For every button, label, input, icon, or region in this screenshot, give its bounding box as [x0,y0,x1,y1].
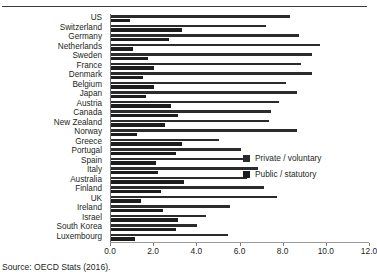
plot-area: USSwitzerlandGermanyNetherlandsSwedenFra… [0,14,369,242]
bar-private-voluntary [111,44,320,47]
bar-private-voluntary [111,82,286,85]
bar-private-voluntary [111,215,206,218]
bar-private-voluntary [111,196,277,199]
category-label: Israel [82,214,102,223]
category-label: South Korea [56,223,102,232]
bars-panel [110,14,369,242]
bar-public-statutory [111,180,184,183]
legend-item: Public / statutory [243,168,367,181]
chart-legend: Private / voluntaryPublic / statutory [243,152,367,184]
category-label: Italy [87,166,102,175]
category-label: Ireland [77,204,102,213]
category-label: Switzerland [60,24,102,33]
bar-public-statutory [111,171,158,174]
category-label: Greece [75,138,102,147]
bar-private-voluntary [111,205,230,208]
category-label: Netherlands [58,43,102,52]
category-label: Norway [74,128,102,137]
x-tick-label: 6.0 [234,246,246,256]
legend-item: Private / voluntary [243,152,367,165]
x-tick-label: 4.0 [191,246,203,256]
bar-private-voluntary [111,63,301,66]
category-label: Sweden [72,52,102,61]
category-label: US [91,14,102,23]
bar-public-statutory [111,161,156,164]
bar-public-statutory [111,114,178,117]
legend-swatch-private [243,155,250,162]
bar-public-statutory [111,95,146,98]
bar-private-voluntary [111,34,299,37]
bar-private-voluntary [111,129,297,132]
category-label: Belgium [72,81,102,90]
bar-public-statutory [111,123,165,126]
bar-private-voluntary [111,177,247,180]
bar-public-statutory [111,237,135,240]
bar-public-statutory [111,66,154,69]
bar-public-statutory [111,199,141,202]
x-tick-label: 2.0 [147,246,159,256]
bar-private-voluntary [111,15,290,18]
source-note: Source: OECD Stats (2016). [2,262,110,273]
bar-public-statutory [111,28,182,31]
category-axis-labels: USSwitzerlandGermanyNetherlandsSwedenFra… [0,14,106,242]
bar-private-voluntary [111,72,312,75]
category-label: Finland [75,185,102,194]
category-label: UK [91,195,102,204]
bar-private-voluntary [111,224,197,227]
x-tick-label: 12.0 [361,246,377,256]
bar-public-statutory [111,152,176,155]
bar-private-voluntary [111,139,219,142]
bar-public-statutory [111,209,163,212]
x-tick-label: 8.0 [277,246,289,256]
bar-public-statutory [111,142,182,145]
category-label: Denmark [69,71,102,80]
category-label: Canada [73,109,102,118]
bar-private-voluntary [111,148,241,151]
bar-public-statutory [111,19,130,22]
category-label: France [77,62,102,71]
legend-swatch-public [243,171,250,178]
category-label: Portugal [72,147,103,156]
bar-private-voluntary [111,25,266,28]
top-divider-rule [2,6,367,7]
category-label: Spain [81,157,102,166]
category-label: Austria [77,100,102,109]
bar-public-statutory [111,133,137,136]
category-label: Japan [80,90,102,99]
bar-public-statutory [111,76,143,79]
bar-private-voluntary [111,120,269,123]
category-label: Luxembourg [56,233,102,242]
bar-public-statutory [111,38,169,41]
bar-private-voluntary [111,101,279,104]
category-label: Germany [68,33,102,42]
bar-public-statutory [111,57,148,60]
bar-private-voluntary [111,234,228,237]
bar-private-voluntary [111,186,264,189]
bar-private-voluntary [111,158,249,161]
category-label: New Zealand [54,119,102,128]
legend-label: Public / statutory [255,170,316,179]
legend-label: Private / voluntary [255,154,321,163]
bar-public-statutory [111,228,176,231]
bar-public-statutory [111,218,178,221]
bar-private-voluntary [111,110,271,113]
bar-public-statutory [111,85,154,88]
bar-private-voluntary [111,53,312,56]
bar-public-statutory [111,104,171,107]
bar-private-voluntary [111,91,297,94]
x-tick-label: 10.0 [318,246,334,256]
category-label: Australia [70,176,102,185]
x-axis-tick-labels: 0.02.04.06.08.010.012.0 [0,246,369,260]
bar-private-voluntary [111,167,258,170]
x-tick-label: 0.0 [104,246,116,256]
bar-public-statutory [111,190,161,193]
bar-public-statutory [111,47,133,50]
